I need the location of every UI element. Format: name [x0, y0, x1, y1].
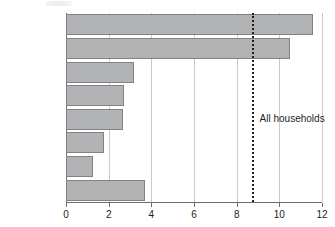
bar-row: Sikh: [66, 85, 322, 106]
bar-row: Christian: [66, 38, 322, 59]
x-tick-4: [151, 203, 152, 207]
bar-sikh: [66, 85, 124, 106]
all-households-line: [252, 13, 254, 202]
bar-row: Hindu: [66, 62, 322, 83]
bar-chart: 024681012 JewishChristianHinduSikhNo rel…: [0, 0, 335, 227]
x-tick-label-4: 4: [149, 209, 155, 221]
x-tick-6: [194, 203, 195, 207]
x-tick-label-2: 2: [106, 209, 112, 221]
bar-row: Muslim: [66, 156, 322, 177]
x-tick-label-12: 12: [316, 209, 327, 221]
x-tick-12: [322, 203, 323, 207]
bar-row: Other religions: [66, 180, 322, 201]
cropped-title-artifact: [46, 1, 72, 6]
bar-other-religions: [66, 180, 145, 201]
bar-no-religion: [66, 109, 123, 130]
x-tick-label-6: 6: [191, 209, 197, 221]
bar-buddhist: [66, 132, 104, 153]
x-tick-0: [66, 203, 67, 207]
gridline-12: [322, 13, 323, 202]
x-tick-8: [237, 203, 238, 207]
bar-jewish: [66, 14, 313, 35]
all-households-label: All households: [260, 113, 325, 125]
plot-area: 024681012 JewishChristianHinduSikhNo rel…: [66, 13, 322, 202]
x-tick-label-8: 8: [234, 209, 240, 221]
x-tick-label-0: 0: [63, 209, 69, 221]
x-tick-2: [109, 203, 110, 207]
bar-hindu: [66, 62, 134, 83]
bar-christian: [66, 38, 290, 59]
bar-row: Jewish: [66, 14, 322, 35]
x-tick-label-10: 10: [274, 209, 285, 221]
bar-muslim: [66, 156, 93, 177]
x-tick-10: [279, 203, 280, 207]
bar-row: Buddhist: [66, 132, 322, 153]
